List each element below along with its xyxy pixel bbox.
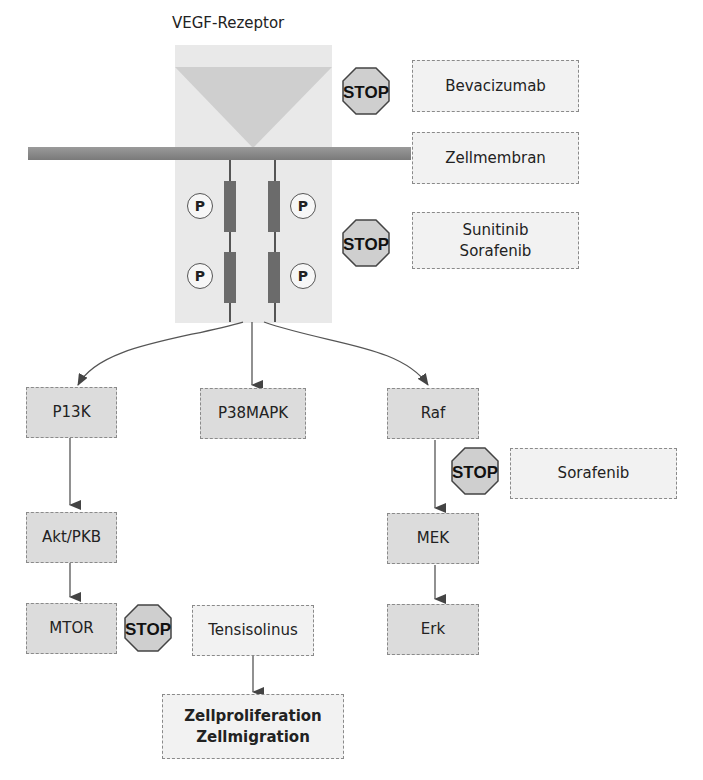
- svg-text:STOP: STOP: [343, 83, 389, 102]
- inhibitor-sorafenib-raf: Sorafenib: [510, 448, 677, 499]
- outcome-box: Zellproliferation Zellmigration: [162, 694, 344, 759]
- svg-text:STOP: STOP: [343, 235, 389, 254]
- node-p38mapk: P38MAPK: [200, 388, 306, 439]
- stop-icon: STOP: [124, 604, 172, 652]
- outcome-migration: Zellmigration: [196, 727, 310, 747]
- arrow-to-raf: [264, 322, 428, 385]
- svg-text:STOP: STOP: [125, 620, 171, 639]
- inhibitor-bevacizumab: Bevacizumab: [412, 60, 579, 112]
- node-mek: MEK: [387, 513, 479, 564]
- node-raf: Raf: [387, 388, 479, 439]
- svg-text:STOP: STOP: [452, 463, 498, 482]
- node-erk: Erk: [387, 604, 479, 655]
- node-akt-pkb: Akt/PKB: [26, 512, 117, 563]
- inhibitor-sorafenib: Sorafenib: [460, 241, 532, 261]
- node-p13k: P13K: [26, 387, 117, 438]
- membrane-label: Zellmembran: [412, 132, 579, 184]
- inhibitor-tensisolinus: Tensisolinus: [192, 605, 314, 656]
- arrow-to-p13k: [78, 322, 243, 385]
- inhibitor-sunitinib: Sunitinib: [463, 220, 529, 240]
- stop-icon: STOP: [451, 447, 499, 495]
- inhibitor-sunitinib-sorafenib: Sunitinib Sorafenib: [412, 212, 579, 269]
- stop-icon: STOP: [342, 67, 390, 115]
- node-mtor: MTOR: [26, 603, 117, 654]
- outcome-proliferation: Zellproliferation: [184, 706, 322, 726]
- stop-icon: STOP: [342, 219, 390, 267]
